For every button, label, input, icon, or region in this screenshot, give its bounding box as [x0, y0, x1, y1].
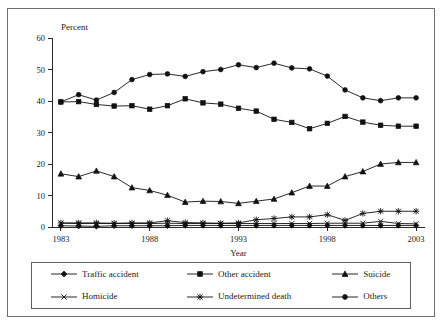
asterisk-marker [182, 219, 188, 225]
square-marker [183, 97, 188, 102]
square-marker [218, 102, 223, 107]
legend-swatch-square-icon [186, 268, 214, 280]
circle-marker [343, 294, 348, 299]
triangle-marker [129, 185, 135, 190]
data-point-marker [94, 98, 99, 103]
circle-marker [59, 100, 64, 105]
data-point-marker [360, 95, 365, 100]
asterisk-marker [253, 217, 259, 223]
data-point-marker [307, 66, 312, 71]
series-other-accident [59, 97, 419, 131]
data-point-marker [396, 124, 401, 129]
data-point-marker [197, 294, 204, 301]
square-marker [343, 114, 348, 119]
data-point-marker [93, 220, 99, 226]
circle-marker [343, 88, 348, 93]
legend-item-others[interactable]: Others [309, 291, 410, 303]
data-point-marker [290, 120, 295, 125]
data-point-marker [378, 123, 383, 128]
square-marker [378, 123, 383, 128]
asterisk-marker [93, 220, 99, 226]
asterisk-marker [306, 214, 312, 220]
data-point-marker [343, 114, 348, 119]
circle-marker [183, 74, 188, 79]
data-point-marker [165, 72, 170, 77]
data-point-marker [76, 92, 81, 97]
data-point-marker [272, 117, 277, 122]
circle-marker [94, 98, 99, 103]
data-point-marker [414, 124, 419, 129]
data-point-marker [254, 65, 259, 70]
circle-marker [360, 95, 365, 100]
data-point-marker [76, 220, 82, 226]
legend-swatch-asterisk-icon [186, 291, 214, 303]
data-point-marker [235, 220, 241, 226]
data-point-marker [360, 169, 366, 174]
legend-item-other-accident[interactable]: Other accident [168, 268, 309, 280]
square-marker [147, 107, 152, 112]
data-point-marker [59, 100, 64, 105]
data-point-marker [182, 219, 188, 225]
y-axis-tick-label: 0 [41, 222, 45, 232]
data-point-marker [130, 103, 135, 108]
data-point-marker [289, 214, 295, 220]
x-axis-title: Year [230, 248, 247, 258]
asterisk-marker [360, 210, 366, 216]
square-marker [272, 117, 277, 122]
x-axis-tick-label: 2003 [408, 234, 425, 244]
asterisk-marker [200, 220, 206, 226]
legend-item-homicide[interactable]: Homicide [32, 291, 168, 303]
legend-swatch-cross-icon [50, 291, 78, 303]
legend-swatch-circle-icon [331, 291, 359, 303]
data-point-marker [112, 90, 117, 95]
circle-marker [201, 69, 206, 74]
circle-marker [165, 72, 170, 77]
asterisk-marker [58, 220, 64, 226]
legend-label: Homicide [82, 292, 118, 301]
triangle-marker [94, 168, 100, 173]
circle-marker [147, 72, 152, 77]
data-point-marker [343, 294, 348, 299]
data-point-marker [147, 72, 152, 77]
asterisk-marker [271, 215, 277, 221]
data-point-marker [343, 88, 348, 93]
square-marker [325, 121, 330, 126]
data-point-marker [218, 220, 224, 226]
asterisk-marker [197, 294, 204, 301]
data-point-marker [201, 69, 206, 74]
data-point-marker [147, 107, 152, 112]
legend-swatch-diamond-icon [50, 268, 78, 280]
asterisk-marker [147, 220, 153, 226]
data-point-marker [361, 120, 366, 125]
data-point-marker [324, 212, 330, 218]
circle-marker [218, 67, 223, 72]
legend-item-suicide[interactable]: Suicide [309, 268, 410, 280]
data-point-marker [325, 121, 330, 126]
data-point-marker [111, 220, 117, 226]
circle-marker [254, 65, 259, 70]
square-marker [112, 104, 117, 109]
asterisk-marker [164, 218, 170, 224]
y-axis-tick-label: 60 [37, 33, 46, 43]
asterisk-marker [111, 220, 117, 226]
circle-marker [396, 95, 401, 100]
figure-container: 010203040506019831988199319982003Percent… [0, 0, 443, 325]
asterisk-marker [342, 217, 348, 223]
legend-item-undetermined-death[interactable]: Undetermined death [168, 291, 309, 303]
legend-label: Suicide [363, 270, 390, 279]
square-marker [198, 272, 203, 277]
asterisk-marker [413, 208, 419, 214]
square-marker [361, 120, 366, 125]
data-point-marker [378, 98, 383, 103]
circle-marker [76, 92, 81, 97]
x-axis-tick-label: 1983 [52, 234, 69, 244]
legend-item-traffic-accident[interactable]: Traffic accident [32, 268, 168, 280]
data-point-marker [218, 102, 223, 107]
circle-marker [307, 66, 312, 71]
data-point-marker [165, 103, 170, 108]
legend-swatch-triangle-icon [331, 268, 359, 280]
data-point-marker [200, 220, 206, 226]
square-marker [290, 120, 295, 125]
data-point-marker [342, 217, 348, 223]
series-suicide [58, 159, 419, 205]
